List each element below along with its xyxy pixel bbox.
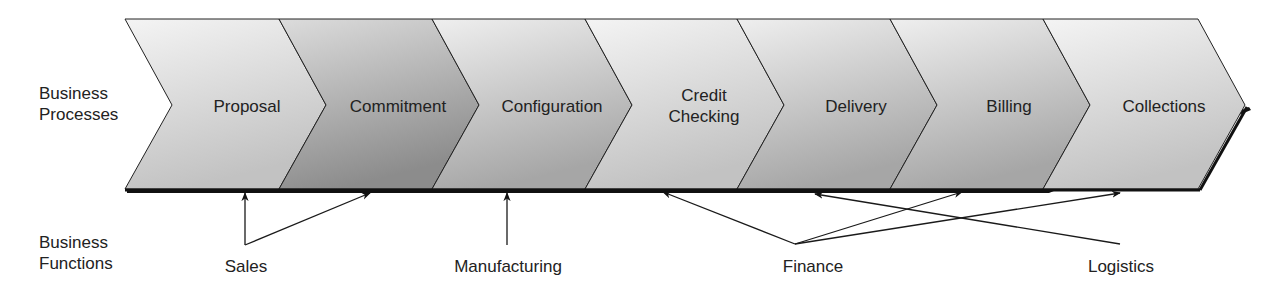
process-label-billing: Billing: [986, 96, 1031, 117]
row-label-line: Business: [39, 83, 118, 104]
arrow-finance-to-credit-checking: [663, 192, 795, 244]
arrow-finance-to-billing: [795, 192, 962, 244]
function-label-sales: Sales: [225, 256, 268, 277]
process-label-text: Commitment: [350, 96, 446, 117]
process-label-proposal: Proposal: [213, 96, 280, 117]
process-label-configuration: Configuration: [501, 96, 602, 117]
function-label-logistics: Logistics: [1088, 256, 1154, 277]
process-label-text: Checking: [669, 106, 740, 127]
process-label-text: Delivery: [825, 96, 886, 117]
process-label-collections: Collections: [1122, 96, 1205, 117]
process-label-commitment: Commitment: [350, 96, 446, 117]
process-label-text: Credit: [669, 85, 740, 106]
row-label-business-functions: Business Functions: [39, 232, 113, 274]
arrow-logistics-to-delivery: [815, 194, 1120, 244]
row-label-business-processes: Business Processes: [39, 83, 118, 125]
process-label-text: Collections: [1122, 96, 1205, 117]
row-label-line: Functions: [39, 253, 113, 274]
row-label-line: Processes: [39, 104, 118, 125]
process-label-text: Billing: [986, 96, 1031, 117]
process-label-text: Configuration: [501, 96, 602, 117]
arrow-sales-to-commitment: [245, 193, 370, 245]
function-label-finance: Finance: [783, 256, 843, 277]
function-arrows: [245, 192, 1120, 245]
function-label-manufacturing: Manufacturing: [454, 256, 562, 277]
process-label-delivery: Delivery: [825, 96, 886, 117]
process-label-credit-checking: Credit Checking: [669, 85, 740, 127]
process-label-text: Proposal: [213, 96, 280, 117]
process-function-diagram: [0, 0, 1276, 296]
row-label-line: Business: [39, 232, 113, 253]
